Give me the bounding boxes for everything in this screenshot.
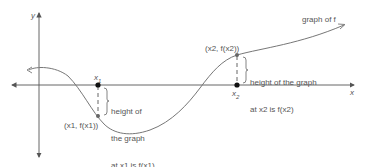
point-x2-fx2 (235, 53, 239, 57)
point2-label: (x2, f(x2)) (205, 44, 239, 53)
point1-annotation: height of the graph at x1 is f(x1) (111, 89, 155, 167)
x-axis-label: x (350, 88, 354, 97)
point1-label: (x1, f(x1)) (64, 121, 98, 130)
curve-label: graph of f (302, 15, 336, 24)
x1-tick-label: x1 (94, 73, 101, 86)
y-axis-label: y (31, 11, 35, 20)
x2-brace (243, 57, 248, 83)
point-x1-fx1 (96, 114, 100, 118)
function-graph-diagram: y x graph of f x1 x2 (x1, f(x1)) (x2, f(… (0, 0, 369, 167)
x1-brace (104, 88, 109, 115)
x2-point (234, 82, 239, 87)
x2-tick-label: x2 (232, 89, 239, 102)
point2-annotation: height of the graph at x2 is f(x2) (250, 60, 317, 132)
